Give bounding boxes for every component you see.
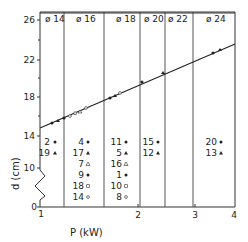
svg-text:19: 19	[39, 148, 51, 158]
svg-text:3: 3	[192, 210, 198, 220]
svg-text:4: 4	[231, 210, 237, 220]
svg-text:9: 9	[78, 170, 84, 180]
legend-group-d20: 15 12	[143, 137, 160, 158]
svg-text:1: 1	[38, 209, 44, 219]
svg-text:ø 14: ø 14	[45, 14, 65, 24]
svg-text:11: 11	[111, 137, 122, 147]
svg-text:16: 16	[111, 159, 123, 169]
svg-text:7: 7	[78, 159, 84, 169]
svg-text:4: 4	[78, 137, 84, 147]
x-axis-label: P (kW)	[70, 227, 103, 238]
svg-text:26: 26	[24, 15, 36, 25]
svg-text:15: 15	[143, 137, 154, 147]
svg-text:14: 14	[73, 192, 85, 202]
svg-text:10: 10	[111, 181, 123, 191]
svg-text:2: 2	[135, 210, 141, 220]
svg-text:2: 2	[44, 137, 50, 147]
legend-group-d16: 4 17 7 9 18 14	[73, 137, 90, 202]
legend-group-d18: 11 5 16 1 10 8	[111, 137, 128, 202]
svg-text:ø 20: ø 20	[144, 14, 164, 24]
legend-group-d24: 20 13	[206, 137, 223, 158]
svg-text:22: 22	[24, 55, 35, 65]
band-labels: ø 14 ø 16 ø 18 ø 20 ø 22 ø 24	[45, 14, 226, 24]
svg-text:10: 10	[24, 163, 36, 173]
svg-text:13: 13	[206, 148, 217, 158]
svg-text:ø 18: ø 18	[116, 14, 136, 24]
svg-text:18: 18	[73, 181, 85, 191]
svg-text:20: 20	[206, 137, 218, 147]
plot-frame	[35, 12, 235, 207]
svg-text:0: 0	[31, 202, 37, 212]
y-tick-labels: 26 22 18 14 10 0	[24, 15, 38, 212]
chart: 26 22 18 14 10 0 1 2 3 4 P (kW) d (cm) ø…	[0, 0, 248, 242]
x-tick-labels: 1 2 3 4	[38, 209, 237, 220]
svg-text:18: 18	[24, 92, 36, 102]
svg-text:8: 8	[116, 192, 122, 202]
y-axis-label: d (cm)	[10, 157, 21, 190]
legend-group-d14: 2 19	[39, 137, 57, 158]
svg-text:14: 14	[24, 131, 36, 141]
svg-text:1: 1	[116, 170, 122, 180]
svg-text:17: 17	[73, 148, 84, 158]
svg-text:ø 24: ø 24	[206, 14, 226, 24]
svg-text:ø 16: ø 16	[76, 14, 96, 24]
svg-text:ø 22: ø 22	[168, 14, 188, 24]
svg-text:5: 5	[116, 148, 122, 158]
svg-text:12: 12	[143, 148, 154, 158]
